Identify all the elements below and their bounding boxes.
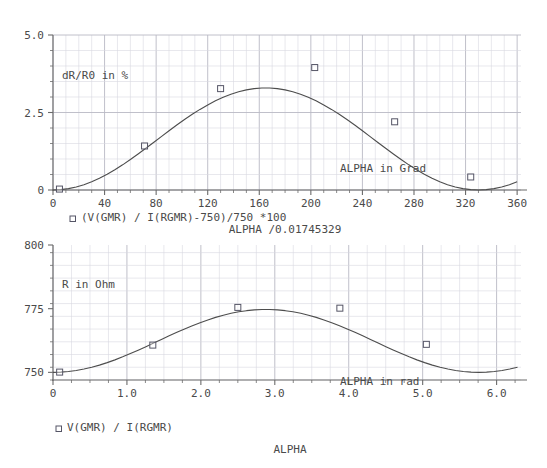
chart-svg-bottom-wrapper: 75077580001.02.03.04.05.06.0R in OhmALPH… <box>0 234 547 468</box>
data-point-marker[interactable] <box>337 305 343 311</box>
x-tick-label: 0 <box>50 387 57 400</box>
data-point-marker[interactable] <box>235 304 241 310</box>
data-point-marker[interactable] <box>392 119 398 125</box>
y-tick-label: 750 <box>24 366 44 379</box>
legend-marker-icon <box>56 426 62 432</box>
x-tick-label: 40 <box>98 197 111 210</box>
x-axis-title: ALPHA /0.01745329 <box>229 223 342 234</box>
legend: V(GMR) / I(RGMR) <box>56 421 173 434</box>
x-tick-label: 1.0 <box>117 387 137 400</box>
x-tick-label: 160 <box>249 197 269 210</box>
data-point-marker[interactable] <box>312 65 318 71</box>
x-tick-label: 200 <box>301 197 321 210</box>
y-axis-ticks: 750775800 <box>24 239 53 380</box>
x-tick-label: 240 <box>352 197 372 210</box>
x-tick-label: 3.0 <box>265 387 285 400</box>
plot-annotation-y-quantity: R in Ohm <box>62 278 115 291</box>
x-axis-ticks: 04080120160200240280320360 <box>50 190 527 210</box>
data-point-marker[interactable] <box>218 86 224 92</box>
plot-annotation-x-quantity: ALPHA in rad <box>340 375 419 388</box>
x-tick-label: 80 <box>150 197 163 210</box>
chart-svg-bottom: 75077580001.02.03.04.05.06.0R in OhmALPH… <box>0 234 547 468</box>
y-tick-label: 0 <box>37 184 44 197</box>
axes <box>52 35 527 191</box>
chart-svg-top: 02.55.004080120160200240280320360dR/R0 i… <box>0 0 547 234</box>
y-axis-ticks: 02.55.0 <box>24 29 53 197</box>
x-tick-label: 6.0 <box>487 387 507 400</box>
legend-label: V(GMR) / I(RGMR) <box>67 421 173 434</box>
plot-annotation-x-quantity: ALPHA in Grad <box>340 162 426 175</box>
x-tick-label: 0 <box>50 197 57 210</box>
grid-lines <box>53 35 521 190</box>
y-tick-label: 5.0 <box>24 29 44 42</box>
data-point-marker[interactable] <box>142 143 148 149</box>
y-tick-label: 775 <box>24 303 44 316</box>
x-axis-title: ALPHA <box>273 443 306 456</box>
x-tick-label: 120 <box>198 197 218 210</box>
data-point-marker[interactable] <box>150 342 156 348</box>
data-point-marker[interactable] <box>423 341 429 347</box>
data-point-marker[interactable] <box>468 174 474 180</box>
x-tick-label: 4.0 <box>339 387 359 400</box>
x-tick-label: 280 <box>404 197 424 210</box>
x-tick-label: 2.0 <box>191 387 211 400</box>
y-tick-label: 800 <box>24 239 44 252</box>
x-tick-label: 320 <box>456 197 476 210</box>
y-tick-label: 2.5 <box>24 107 44 120</box>
data-point-marker[interactable] <box>57 369 63 375</box>
chart-panel-top: 02.55.004080120160200240280320360dR/R0 i… <box>0 0 547 234</box>
x-tick-label: 360 <box>507 197 527 210</box>
plot-annotation-y-quantity: dR/R0 in % <box>62 69 129 82</box>
data-point-marker[interactable] <box>56 186 62 192</box>
grid-lines <box>53 245 521 380</box>
data-markers <box>57 304 430 375</box>
data-curve <box>53 310 518 373</box>
legend-marker-icon <box>70 216 76 222</box>
x-tick-label: 5.0 <box>413 387 433 400</box>
x-axis-ticks: 01.02.03.04.05.06.0 <box>50 380 515 400</box>
chart-panel-bottom: 75077580001.02.03.04.05.06.0R in OhmALPH… <box>0 234 547 468</box>
chart-svg-top-wrapper: 02.55.004080120160200240280320360dR/R0 i… <box>0 0 547 234</box>
